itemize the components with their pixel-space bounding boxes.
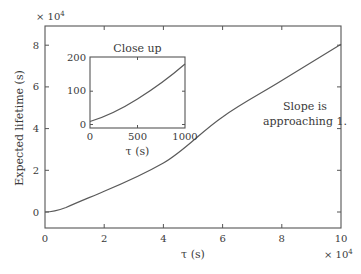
main-y-axis-label: Expected lifetime (s) bbox=[13, 70, 26, 186]
main-y-ticks bbox=[45, 45, 341, 212]
main-x-multiplier: × 104 bbox=[324, 248, 353, 260]
inset-title: Close up bbox=[113, 42, 161, 55]
inset-x-tick-label: 1000 bbox=[172, 131, 197, 142]
x-tick-label: 2 bbox=[101, 233, 107, 244]
y-tick-label: 6 bbox=[33, 81, 39, 92]
x-tick-label: 4 bbox=[160, 233, 166, 244]
inset-y-tick-label: 0 bbox=[80, 119, 86, 130]
y-tick-label: 4 bbox=[33, 123, 39, 134]
y-tick-label: 2 bbox=[33, 165, 39, 176]
x-tick-label: 6 bbox=[219, 233, 225, 244]
y-tick-label: 0 bbox=[33, 207, 39, 218]
annotation-slope-line2: approaching 1. bbox=[263, 115, 347, 128]
chart-svg: × 104 0 2 4 6 8 0 2 4 6 8 10 τ (s) × 104… bbox=[0, 0, 361, 274]
inset-chart: Close up 0 100 200 0 500 1000 τ (s) bbox=[67, 42, 198, 158]
inset-x-tick-label: 500 bbox=[128, 131, 147, 142]
main-x-axis-label: τ (s) bbox=[181, 248, 205, 261]
chart-container: × 104 0 2 4 6 8 0 2 4 6 8 10 τ (s) × 104… bbox=[0, 0, 361, 274]
main-series-line bbox=[45, 44, 341, 212]
inset-x-axis-label: τ (s) bbox=[126, 145, 150, 158]
inset-y-tick-label: 100 bbox=[67, 85, 86, 96]
annotation-slope-line1: Slope is bbox=[283, 100, 327, 113]
inset-x-tick-label: 0 bbox=[87, 131, 93, 142]
x-tick-label: 10 bbox=[335, 233, 348, 244]
x-tick-label: 8 bbox=[279, 233, 285, 244]
main-y-tick-labels: 0 2 4 6 8 bbox=[33, 40, 39, 218]
main-x-tick-labels: 0 2 4 6 8 10 bbox=[42, 233, 348, 244]
y-tick-label: 8 bbox=[33, 40, 39, 51]
inset-y-tick-label: 200 bbox=[67, 52, 86, 63]
x-tick-label: 0 bbox=[42, 233, 48, 244]
main-y-multiplier: × 104 bbox=[36, 10, 65, 22]
